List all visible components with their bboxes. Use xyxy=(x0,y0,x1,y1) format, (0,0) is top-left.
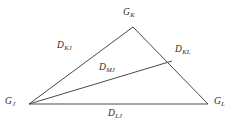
vertex-label-gj-base: G xyxy=(5,96,12,106)
edge-gk-gl xyxy=(133,27,208,104)
triangle-distance-diagram: GK GJ GL DKJ DKL DMJ DLJ xyxy=(0,0,237,131)
edge-label-dkl: DKL xyxy=(175,45,190,55)
vertex-label-gk-base: G xyxy=(123,7,130,17)
vertex-label-gl-subscript: L xyxy=(221,100,225,107)
vertex-label-gk: GK xyxy=(123,8,134,18)
edge-label-dkj-base: D xyxy=(57,40,64,50)
vertex-label-gl: GL xyxy=(214,97,225,107)
edge-gj-gk xyxy=(29,27,133,104)
edge-label-dlj-subscript: LJ xyxy=(115,112,122,119)
vertex-label-gj: GJ xyxy=(5,97,15,107)
edge-label-dkl-subscript: KL xyxy=(182,48,190,55)
edge-label-dmj-base: D xyxy=(99,62,106,72)
edge-label-dkj: DKJ xyxy=(57,41,72,51)
vertex-label-gj-subscript: J xyxy=(12,100,15,107)
vertex-label-gl-base: G xyxy=(214,96,221,106)
edge-label-dmj: DMJ xyxy=(99,63,115,73)
vertex-label-gk-subscript: K xyxy=(130,11,135,18)
edge-label-dkl-base: D xyxy=(175,44,182,54)
edge-label-dlj: DLJ xyxy=(108,109,122,119)
edge-label-dmj-subscript: MJ xyxy=(106,66,115,73)
edge-label-dlj-base: D xyxy=(108,108,115,118)
edge-label-dkj-subscript: KJ xyxy=(64,44,72,51)
